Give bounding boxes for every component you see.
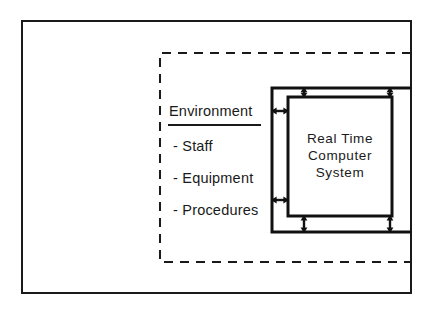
list-item: - Staff [173, 138, 273, 154]
real-time-computer-system-label: Real Time Computer System [288, 130, 392, 181]
arrow-left-upper-icon [271, 108, 289, 115]
arrow-bottom-left-icon [301, 215, 308, 233]
environment-title: Environment [169, 104, 253, 119]
rtcs-line-1: Real Time [288, 130, 392, 147]
rtcs-line-2: Computer [288, 147, 392, 164]
list-item: - Equipment [173, 170, 273, 186]
diagram-canvas: Environment - Staff - Equipment - Proced… [0, 0, 433, 311]
arrow-left-lower-icon [271, 197, 289, 204]
environment-item-list: - Staff - Equipment - Procedures [173, 138, 273, 234]
environment-title-underline [168, 124, 261, 126]
arrow-bottom-right-icon [387, 215, 394, 233]
list-item: - Procedures [173, 202, 273, 218]
rtcs-line-3: System [288, 164, 392, 181]
